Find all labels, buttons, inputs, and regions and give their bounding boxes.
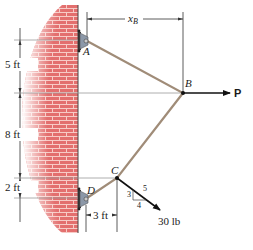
label-d: D xyxy=(86,184,95,196)
label-b: B xyxy=(185,77,192,89)
label-30lb: 30 lb xyxy=(158,215,181,227)
cable-diagram: 5 ft 8 ft 2 ft xB 3 ft A B xyxy=(0,0,253,250)
dim-xb: xB xyxy=(127,12,138,26)
brick-wall xyxy=(22,5,78,233)
label-a: A xyxy=(82,45,90,57)
slope-rise: 3 xyxy=(127,190,131,199)
label-p: P xyxy=(234,87,241,99)
dim-5ft: 5 ft xyxy=(5,58,20,70)
slope-hyp: 5 xyxy=(143,184,147,193)
cable xyxy=(87,41,183,198)
label-c: C xyxy=(111,164,119,176)
dim-3ft: 3 ft xyxy=(93,209,108,221)
dim-8ft: 8 ft xyxy=(5,128,20,140)
slope-run: 4 xyxy=(137,201,141,210)
dim-2ft: 2 ft xyxy=(5,181,20,193)
